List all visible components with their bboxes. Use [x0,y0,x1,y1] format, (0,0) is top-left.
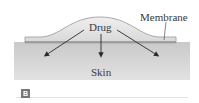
divider-rule [16,97,188,98]
drug-label: Drug [89,22,112,33]
panel-badge: B [21,89,30,98]
membrane-label: Membrane [140,12,188,23]
skin-label: Skin [91,67,111,78]
